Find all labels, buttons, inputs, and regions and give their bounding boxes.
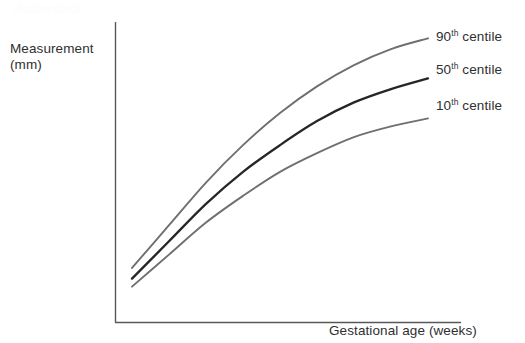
- growth-chart-figure: shutterstock Measurement (mm) Gestationa…: [0, 0, 525, 343]
- y-axis-title: Measurement (mm): [10, 41, 94, 73]
- legend-50-rest: centile: [459, 62, 503, 77]
- legend-90-rest: centile: [459, 29, 503, 44]
- legend-label-10th-centile: 10th centile: [436, 98, 502, 114]
- legend-label-50th-centile: 50th centile: [436, 62, 502, 78]
- legend-label-90th-centile: 90th centile: [436, 29, 502, 45]
- legend-90-number: 90: [436, 29, 451, 44]
- legend-50-number: 50: [436, 62, 451, 77]
- legend-50-suffix: th: [451, 61, 458, 71]
- y-axis-title-line1: Measurement: [10, 41, 94, 56]
- legend-10-suffix: th: [451, 97, 458, 107]
- x-axis-title: Gestational age (weeks): [329, 323, 477, 339]
- legend-90-suffix: th: [451, 28, 458, 38]
- curve-10th-centile: [132, 118, 428, 286]
- y-axis-title-line2: (mm): [10, 57, 94, 73]
- legend-10-number: 10: [436, 98, 451, 113]
- legend-10-rest: centile: [459, 98, 503, 113]
